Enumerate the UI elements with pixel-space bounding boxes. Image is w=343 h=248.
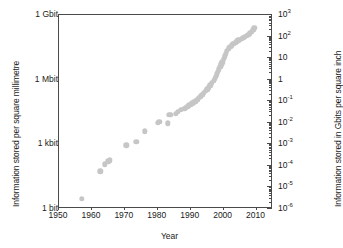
y-tick-label-left: 1 bit [42,203,58,213]
y-minor-tick-right [269,155,272,156]
y-minor-tick-right [269,133,272,134]
y-minor-tick-right [269,158,272,159]
x-tick-label: 2010 [246,210,265,220]
y-minor-tick-right [269,94,272,95]
data-point [165,121,170,126]
y-minor-tick-right [269,191,272,192]
x-tick-label: 1980 [147,210,166,220]
y-minor-tick-right [269,59,272,60]
y-minor-tick-right [269,101,272,102]
y-tick-right [267,208,272,209]
data-point [107,158,112,163]
y-minor-tick-right [269,168,272,169]
y-minor-tick-right [269,128,272,129]
y-minor-tick-right [269,64,272,65]
y-minor-tick-right [269,202,272,203]
y-minor-tick-right [269,198,272,199]
x-tick-label: 2000 [213,210,232,220]
y-minor-tick-right [269,166,272,167]
y-minor-tick-right [269,130,272,131]
y-minor-tick-right [269,38,272,39]
y-minor-tick-right [269,125,272,126]
y-minor-tick-right [269,180,272,181]
y-minor-tick-right [269,82,272,83]
y-axis-title-right: Information stored in Gbits per square i… [333,51,343,207]
y-tick-label-right: 10-2 [278,117,293,127]
y-minor-tick-right [269,111,272,112]
y-tick-label-left: 1 Mbit [35,74,58,84]
y-tick-label-right: 10-4 [278,160,293,170]
y-minor-tick-right [269,51,272,52]
y-minor-tick-right [269,115,272,116]
data-point [134,139,139,144]
y-minor-tick-right [269,190,272,191]
y-tick-label-right: 10-1 [278,95,293,105]
y-tick-label-right: 10-5 [278,181,293,191]
x-tick-label: 1970 [114,210,133,220]
plot-area [58,14,272,208]
y-minor-tick-right [269,25,272,26]
y-minor-tick-right [269,127,272,128]
y-minor-tick-right [269,17,272,18]
y-minor-tick-right [269,42,272,43]
y-minor-tick-right [269,23,272,24]
y-tick-label-right: 103 [278,9,291,19]
x-tick-label: 1990 [180,210,199,220]
y-tick-right [267,14,272,15]
y-minor-tick-right [269,104,272,105]
y-minor-tick-right [269,109,272,110]
y-minor-tick-right [269,187,272,188]
y-minor-tick-right [269,16,272,17]
y-tick-label-left: 1 kbit [38,138,58,148]
data-point [124,143,129,148]
y-minor-tick-right [269,123,272,124]
y-minor-tick-right [269,29,272,30]
y-minor-tick-right [269,62,272,63]
y-tick-label-left: 1 Gbit [35,9,58,19]
y-minor-tick-right [269,193,272,194]
y-minor-tick-right [269,20,272,21]
data-point [252,25,257,30]
y-minor-tick-right [269,107,272,108]
y-minor-tick-right [269,47,272,48]
y-minor-tick-right [269,37,272,38]
y-minor-tick-right [269,39,272,40]
data-point [142,129,147,134]
y-minor-tick-right [269,152,272,153]
data-point [97,169,102,174]
y-tick-label-right: 10-6 [278,203,293,213]
y-minor-tick-right [269,72,272,73]
y-minor-tick-right [269,19,272,20]
y-minor-tick-right [269,171,272,172]
x-tick-label: 1960 [81,210,100,220]
y-minor-tick-right [269,58,272,59]
y-minor-tick-right [269,85,272,86]
data-point [79,196,84,201]
y-minor-tick-right [269,66,272,67]
y-minor-tick-right [269,83,272,84]
y-minor-tick-right [269,124,272,125]
y-minor-tick-right [269,148,272,149]
y-tick-label-right: 1 [278,74,283,84]
y-tick-label-right: 10-3 [278,138,293,148]
y-tick-label-right: 10 [278,52,287,62]
y-minor-tick-right [269,102,272,103]
y-minor-tick-right [269,81,272,82]
x-axis-title: Year [0,231,339,241]
y-minor-tick-right [269,90,272,91]
y-minor-tick-right [269,195,272,196]
scatter-points [59,15,271,207]
y-minor-tick-right [269,170,272,171]
y-minor-tick-right [269,167,272,168]
y-minor-tick-right [269,145,272,146]
y-minor-tick-right [269,137,272,138]
y-minor-tick-right [269,189,272,190]
y-minor-tick-right [269,144,272,145]
y-axis-title-left: Information stored per square millimetre [11,61,21,207]
y-minor-tick-right [269,44,272,45]
y-minor-tick-right [269,60,272,61]
y-tick-label-right: 102 [278,31,291,41]
y-minor-tick-right [269,87,272,88]
y-minor-tick-right [269,150,272,151]
